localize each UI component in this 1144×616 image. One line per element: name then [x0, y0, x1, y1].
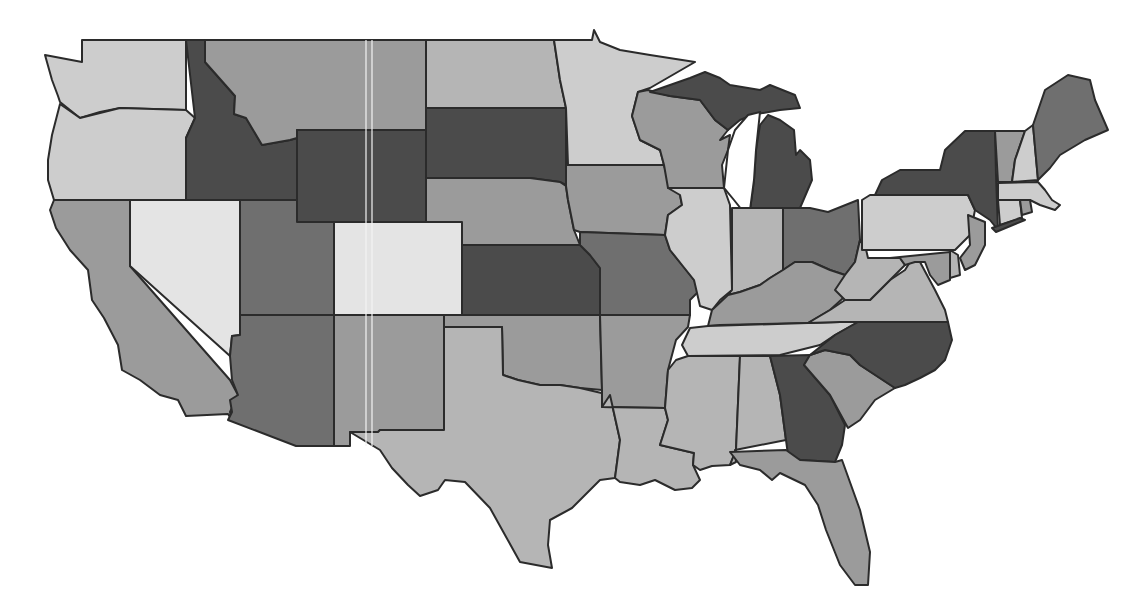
state-oregon[interactable]: Oregon [48, 104, 195, 200]
state-new-mexico[interactable]: New Mexico [334, 315, 444, 446]
state-arizona[interactable]: Arizona [228, 315, 334, 446]
state-washington[interactable]: Washington [45, 40, 186, 118]
us-choropleth-map: Washington Oregon California Nevada Idah… [0, 0, 1144, 616]
state-north-dakota[interactable]: North Dakota [426, 40, 566, 108]
state-delaware[interactable]: Delaware [950, 250, 960, 278]
state-south-dakota[interactable]: South Dakota [426, 108, 566, 185]
state-wyoming[interactable]: Wyoming [297, 130, 426, 222]
state-florida[interactable]: Florida [730, 450, 870, 585]
state-michigan[interactable]: Michigan [750, 115, 812, 210]
map-canvas: Washington Oregon California Nevada Idah… [0, 0, 1144, 616]
state-colorado[interactable]: Colorado [334, 222, 462, 315]
state-kansas[interactable]: Kansas [462, 245, 600, 315]
state-maine[interactable]: Maine [1033, 75, 1108, 180]
state-iowa[interactable]: Iowa [566, 165, 682, 235]
state-pennsylvania[interactable]: Pennsylvania [862, 195, 975, 250]
state-rhode-island[interactable]: Rhode Island [1020, 200, 1032, 215]
